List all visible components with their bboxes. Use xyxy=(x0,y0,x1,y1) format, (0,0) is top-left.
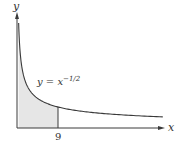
chart-canvas: y x 9 y = x−1/2 xyxy=(0,0,181,143)
x-axis-label: x xyxy=(168,121,175,134)
x-tick-label-9: 9 xyxy=(55,131,61,142)
y-axis-label: y xyxy=(12,0,20,13)
curve-equation-base: y = x xyxy=(36,76,63,87)
curve-equation-exponent: −1/2 xyxy=(63,75,81,83)
x-axis-arrow-icon xyxy=(158,126,165,130)
curve-equation-label: y = x−1/2 xyxy=(36,75,81,87)
y-axis-arrow-icon xyxy=(15,12,19,19)
